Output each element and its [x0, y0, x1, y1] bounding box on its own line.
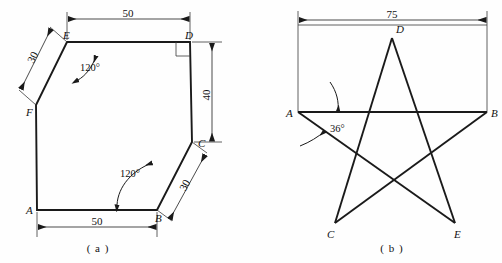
caption-figure-b: ( b ) — [380, 242, 403, 255]
figure-sheet: A B C D E F 50 50 40 30 30 120° 120° ( a… — [0, 0, 502, 263]
vertex-label-c-fig-b: C — [327, 228, 335, 240]
vertex-label-c-fig-a: C — [198, 137, 206, 149]
angle-leader-ae-fig-b — [300, 131, 325, 146]
dim-value-ef-30: 30 — [25, 49, 41, 65]
star-chord-a-e — [298, 112, 455, 223]
dim-value-bottom-50: 50 — [92, 215, 104, 227]
ext-line-f-upperleft — [19, 90, 36, 105]
star-chord-d-e — [392, 38, 455, 223]
angle-value-b-120: 120° — [120, 168, 140, 179]
dim-value-right-40: 40 — [200, 89, 212, 101]
vertex-label-e-fig-a: E — [62, 29, 70, 41]
vertex-label-a-fig-a: A — [25, 204, 33, 216]
dim-value-top-50: 50 — [123, 7, 135, 19]
dim-value-width-75: 75 — [387, 8, 399, 20]
angle-leader-ab-fig-b — [330, 82, 338, 112]
figure-b-group: A B C D E 75 36° ( b ) — [285, 8, 498, 255]
right-angle-mark-d — [176, 42, 190, 56]
hexagon-outline-path — [36, 42, 192, 210]
vertex-label-e-fig-b: E — [453, 228, 461, 240]
star-chord-b-c — [335, 112, 487, 223]
angle-value-e-120: 120° — [80, 62, 100, 73]
vertex-label-a-fig-b: A — [285, 107, 293, 119]
angle-value-a-36: 36° — [330, 123, 345, 134]
geometry-drawing: A B C D E F 50 50 40 30 30 120° 120° ( a… — [0, 0, 502, 263]
vertex-label-b-fig-a: B — [155, 212, 162, 224]
dim-value-bc-30: 30 — [177, 177, 193, 193]
vertex-label-d-fig-b: D — [395, 23, 404, 35]
vertex-label-d-fig-a: D — [184, 29, 193, 41]
caption-figure-a: ( a ) — [87, 242, 110, 255]
vertex-label-f-fig-a: F — [25, 106, 33, 118]
vertex-label-b-fig-b: B — [491, 107, 498, 119]
figure-a-group: A B C D E F 50 50 40 30 30 120° 120° ( a… — [19, 7, 222, 255]
